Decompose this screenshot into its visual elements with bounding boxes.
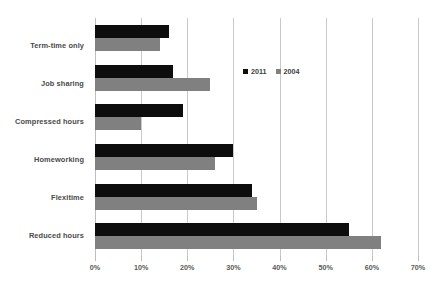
x-tick-label-20pct: 20% bbox=[180, 263, 194, 272]
x-tick-mark-20pct bbox=[187, 256, 188, 261]
plot-area bbox=[95, 18, 418, 256]
bar-reduced-hours-2011 bbox=[95, 223, 349, 236]
x-axis: 0%10%20%30%40%50%60%70% bbox=[95, 256, 418, 280]
gridline-70pct bbox=[418, 18, 419, 256]
category-label-term-time-only: Term-time only bbox=[0, 41, 84, 51]
bar-reduced-hours-2004 bbox=[95, 236, 381, 249]
legend-label-2011: 2011 bbox=[251, 67, 267, 76]
x-tick-label-10pct: 10% bbox=[134, 263, 148, 272]
x-tick-mark-50pct bbox=[326, 256, 327, 261]
legend-label-2004: 2004 bbox=[284, 67, 300, 76]
chart-legend: 2011 2004 bbox=[243, 67, 300, 76]
x-tick-label-40pct: 40% bbox=[272, 263, 286, 272]
x-tick-mark-10pct bbox=[141, 256, 142, 261]
x-tick-mark-70pct bbox=[418, 256, 419, 261]
x-tick-label-0pct: 0% bbox=[90, 263, 100, 272]
legend-swatch-2011 bbox=[243, 69, 248, 74]
bar-term-time-only-2011 bbox=[95, 25, 169, 38]
bar-compressed-hours-2011 bbox=[95, 104, 183, 117]
x-tick-label-30pct: 30% bbox=[226, 263, 240, 272]
category-label-job-sharing: Job sharing bbox=[0, 79, 84, 89]
x-tick-label-70pct: 70% bbox=[411, 263, 425, 272]
x-tick-mark-60pct bbox=[372, 256, 373, 261]
x-tick-label-60pct: 60% bbox=[365, 263, 379, 272]
category-label-reduced-hours: Reduced hours bbox=[0, 231, 84, 241]
legend-item-2004: 2004 bbox=[276, 67, 300, 76]
x-tick-label-50pct: 50% bbox=[319, 263, 333, 272]
bar-homeworking-2004 bbox=[95, 157, 215, 170]
bar-flexitime-2011 bbox=[95, 184, 252, 197]
x-tick-mark-40pct bbox=[280, 256, 281, 261]
category-label-flexitime: Flexitime bbox=[0, 193, 84, 203]
bar-term-time-only-2004 bbox=[95, 38, 160, 51]
x-tick-mark-30pct bbox=[233, 256, 234, 261]
bar-homeworking-2011 bbox=[95, 144, 233, 157]
bar-job-sharing-2011 bbox=[95, 65, 173, 78]
category-axis: Term-time only Job sharing Compressed ho… bbox=[0, 18, 88, 256]
bar-job-sharing-2004 bbox=[95, 78, 210, 91]
x-tick-mark-0pct bbox=[95, 256, 96, 261]
category-label-homeworking: Homeworking bbox=[0, 155, 84, 165]
bars-layer bbox=[95, 18, 418, 256]
bar-chart: Term-time only Job sharing Compressed ho… bbox=[0, 0, 444, 288]
bar-flexitime-2004 bbox=[95, 197, 257, 210]
legend-swatch-2004 bbox=[276, 69, 281, 74]
legend-item-2011: 2011 bbox=[243, 67, 267, 76]
category-label-compressed-hours: Compressed hours bbox=[0, 117, 84, 127]
bar-compressed-hours-2004 bbox=[95, 117, 141, 130]
